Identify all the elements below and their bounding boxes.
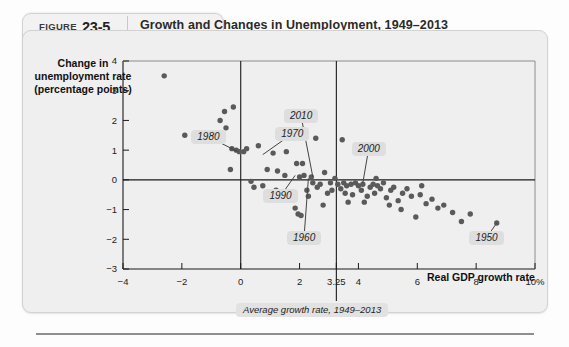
data-point [217,118,222,123]
annotation-2000: 2000 [352,142,386,156]
data-point [404,186,409,191]
data-point [260,183,265,188]
svg-text:0: 0 [112,174,117,185]
svg-text:0: 0 [238,276,243,287]
data-point [298,213,303,218]
data-point [350,192,355,197]
data-point [275,168,280,173]
annotation-1980: 1980 [191,130,225,144]
data-point [310,180,315,185]
data-point [398,207,403,212]
data-point [365,194,370,199]
data-point [400,191,405,196]
svg-text:4: 4 [356,276,361,287]
svg-text:2: 2 [112,115,117,126]
data-point [450,210,455,215]
data-point [459,219,464,224]
data-point [384,195,389,200]
annotation-1960: 1960 [287,231,321,245]
figure-card: Change in unemployment rate (percentage … [22,30,548,313]
annotation-1970: 1970 [275,127,309,141]
scatter-chart: 43210−1−2−3−4−2023.2546810% [23,31,547,312]
data-point [345,199,350,204]
data-point [418,192,423,197]
data-point [284,149,289,154]
svg-text:−2: −2 [106,234,117,245]
data-point [256,143,261,148]
annotation-1990: 1990 [263,189,297,203]
data-point [231,104,236,109]
svg-text:8: 8 [473,276,478,287]
average-growth-note: Average growth rate, 1949–2013 [236,303,388,317]
plot-area: Change in unemployment rate (percentage … [23,31,547,312]
data-point [395,198,400,203]
annotation-1950: 1950 [469,231,503,245]
svg-text:6: 6 [415,276,420,287]
data-point [325,191,330,196]
data-point [359,188,364,193]
data-point [423,201,428,206]
svg-text:−2: −2 [176,276,187,287]
svg-text:10%: 10% [525,276,545,287]
data-point [335,182,340,187]
data-point [429,196,434,201]
data-point [320,202,325,207]
annotation-2010: 2010 [284,109,318,123]
data-point [251,185,256,190]
data-point [301,173,306,178]
svg-text:−4: −4 [118,276,129,287]
data-point [338,186,343,191]
data-point [413,214,418,219]
data-point [391,185,396,190]
data-point [300,161,305,166]
data-point [340,137,345,142]
data-point [409,194,414,199]
data-point [342,191,347,196]
data-point [387,202,392,207]
data-point [373,176,378,181]
data-point [317,182,322,187]
data-point [270,150,275,155]
data-point [372,191,377,196]
data-point [419,183,424,188]
data-point [228,167,233,172]
data-point [435,205,440,210]
data-point [222,109,227,114]
svg-text:4: 4 [112,55,117,66]
bottom-rule [36,333,534,335]
data-point [332,176,337,181]
data-point [468,211,473,216]
data-point [309,174,314,179]
data-point [381,180,386,185]
data-point [322,170,327,175]
figure-page: Figure 23-5 Growth and Changes in Unempl… [0,0,569,347]
data-point [362,199,367,204]
data-point [162,73,167,78]
data-point [182,133,187,138]
data-point [294,161,299,166]
svg-text:1: 1 [112,145,117,156]
data-point [328,180,333,185]
data-point [313,136,318,141]
svg-text:3: 3 [112,85,117,96]
data-point [265,167,270,172]
svg-text:−3: −3 [106,263,117,274]
data-point [248,179,253,184]
svg-text:−1: −1 [106,204,117,215]
data-point [282,173,287,178]
data-point [329,188,334,193]
data-point [378,186,383,191]
data-point [292,205,297,210]
svg-text:2: 2 [297,276,302,287]
data-point [441,202,446,207]
data-point [244,146,249,151]
